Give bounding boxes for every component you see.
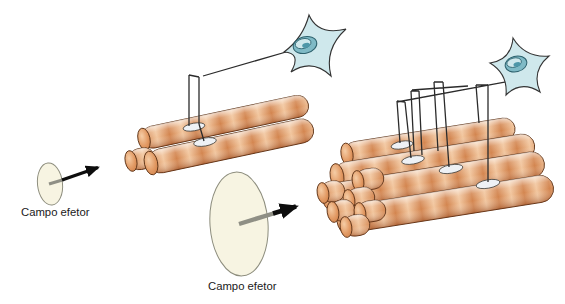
left-field-label: Campo efetor xyxy=(21,206,90,218)
motor-neuron xyxy=(284,15,346,76)
motor-neuron xyxy=(490,38,549,95)
motor-units-diagram: Campo efetor xyxy=(0,0,565,304)
right-field-label: Campo efetor xyxy=(208,280,277,292)
small-motor-unit: Campo efetor xyxy=(21,15,346,218)
diagram-canvas: Campo efetor xyxy=(0,0,565,304)
large-motor-unit: Campo efetor xyxy=(206,38,555,292)
muscle-fiber xyxy=(339,213,372,238)
